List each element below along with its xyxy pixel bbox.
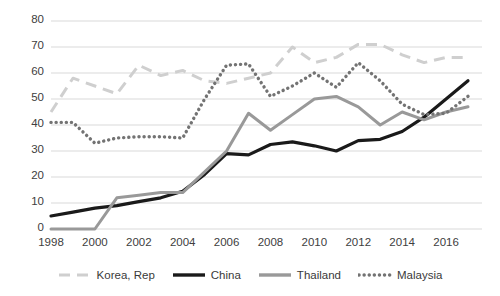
legend-item-malaysia[interactable]: Malaysia xyxy=(358,269,442,281)
dashed-line-swatch xyxy=(58,269,92,281)
legend-label: Thailand xyxy=(297,269,341,281)
legend-label: Korea, Rep xyxy=(97,269,155,281)
x-tick-label: 2014 xyxy=(382,236,422,248)
x-tick-label: 2004 xyxy=(163,236,203,248)
series-line-china xyxy=(51,81,468,216)
solid-black-line-swatch xyxy=(172,269,206,281)
y-tick-label: 0 xyxy=(18,221,44,233)
legend-item-korea-rep[interactable]: Korea, Rep xyxy=(58,269,155,281)
y-tick-label: 10 xyxy=(18,195,44,207)
x-tick-label: 2006 xyxy=(207,236,247,248)
y-tick-label: 50 xyxy=(18,91,44,103)
y-tick-label: 60 xyxy=(18,65,44,77)
chart-plot-area xyxy=(0,0,500,296)
y-tick-label: 30 xyxy=(18,143,44,155)
x-tick-label: 1998 xyxy=(31,236,71,248)
chart-legend: Korea, RepChinaThailandMalaysia xyxy=(0,262,500,288)
y-tick-label: 80 xyxy=(18,13,44,25)
legend-label: China xyxy=(211,269,241,281)
dotted-line-swatch xyxy=(358,269,392,281)
legend-label: Malaysia xyxy=(397,269,442,281)
y-tick-label: 20 xyxy=(18,169,44,181)
x-tick-label: 2002 xyxy=(119,236,159,248)
legend-item-thailand[interactable]: Thailand xyxy=(258,269,341,281)
solid-gray-line-swatch xyxy=(258,269,292,281)
x-tick-label: 2000 xyxy=(75,236,115,248)
x-tick-label: 2010 xyxy=(294,236,334,248)
series-line-thailand xyxy=(51,96,468,229)
x-tick-label: 2012 xyxy=(338,236,378,248)
legend-item-china[interactable]: China xyxy=(172,269,241,281)
x-tick-label: 2016 xyxy=(426,236,466,248)
y-tick-label: 40 xyxy=(18,117,44,129)
line-chart: 80706050403020100 1998200020022004200620… xyxy=(0,0,500,296)
y-tick-label: 70 xyxy=(18,39,44,51)
x-tick-label: 2008 xyxy=(250,236,290,248)
data-series-group xyxy=(51,44,468,229)
